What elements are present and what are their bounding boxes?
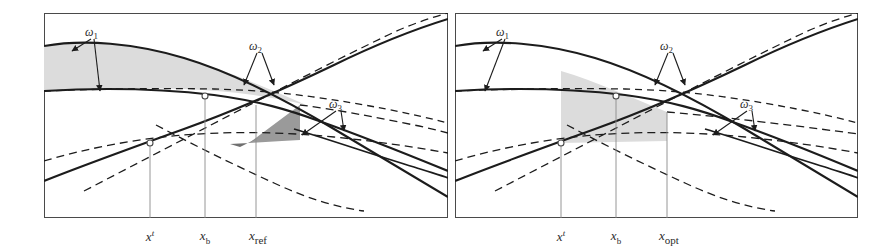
axis-labels-right: xt xb xopt bbox=[455, 218, 858, 252]
plot-left-svg bbox=[44, 13, 448, 218]
tick-label-x-ref-left: xref bbox=[249, 228, 267, 246]
annotation-omega-2 bbox=[655, 53, 685, 85]
tick-label-x-opt-right: xopt bbox=[659, 228, 679, 246]
omega-3-label-right: ω3 bbox=[740, 97, 753, 113]
point-xt bbox=[558, 140, 564, 146]
axis-labels-left: xt xb xref bbox=[44, 218, 448, 252]
shaded-region-improvement bbox=[249, 105, 300, 143]
curve-secondary-solid bbox=[705, 129, 858, 178]
omega-3-subscript: 3 bbox=[337, 103, 342, 113]
omega-2-subscript: 2 bbox=[668, 45, 673, 55]
tick-label-x-t-right: xt bbox=[557, 228, 565, 245]
omega-1-subscript: 1 bbox=[93, 31, 98, 41]
tick-sub: b bbox=[206, 236, 211, 246]
point-xb bbox=[202, 93, 208, 99]
curve-dashed-upper-right bbox=[300, 105, 448, 133]
tick-sub: b bbox=[617, 236, 622, 246]
omega-1-subscript: 1 bbox=[504, 31, 509, 41]
annotation-omega-2 bbox=[244, 53, 274, 85]
annotation-omega-1 bbox=[483, 39, 505, 91]
point-xb bbox=[613, 93, 619, 99]
plot-panel-right: ω1 ω2 ω3 xt xb xopt bbox=[455, 13, 858, 218]
tick-label-x-b-right: xb bbox=[611, 228, 621, 246]
omega-2-label-right: ω2 bbox=[660, 39, 673, 55]
omega-1-label-left: ω1 bbox=[85, 25, 98, 41]
omega-2-label-left: ω2 bbox=[249, 39, 262, 55]
plot-right-svg bbox=[455, 13, 858, 218]
omega-3-label-left: ω3 bbox=[329, 97, 342, 113]
figure-container: ω1 ω2 ω3 xt xb xref bbox=[0, 0, 896, 252]
tick-sub: opt bbox=[665, 234, 679, 246]
omega-2-subscript: 2 bbox=[257, 45, 262, 55]
tick-label-x-t-left: xt bbox=[146, 228, 154, 245]
omega-1-label-right: ω1 bbox=[496, 25, 509, 41]
tick-sub: ref bbox=[255, 234, 267, 246]
omega-3-subscript: 3 bbox=[748, 103, 753, 113]
tick-sup: t bbox=[152, 228, 155, 238]
tick-sup: t bbox=[563, 228, 566, 238]
point-xt bbox=[147, 140, 153, 146]
curve-dashed-upper-right bbox=[667, 112, 858, 134]
plot-panel-left: ω1 ω2 ω3 xt xb xref bbox=[44, 13, 448, 218]
curve-secondary-solid bbox=[294, 129, 448, 178]
tick-label-x-b-left: xb bbox=[200, 228, 210, 246]
